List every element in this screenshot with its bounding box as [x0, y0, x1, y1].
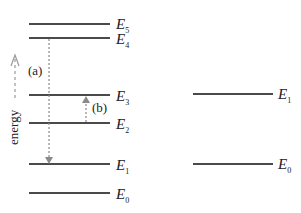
transition-a-arrow — [45, 39, 53, 164]
transition-b-arrow — [82, 96, 90, 122]
transition-a-label: (a) — [28, 63, 42, 79]
arrows-layer — [0, 0, 301, 213]
energy-axis-label: energy — [6, 110, 22, 145]
transition-b-label: (b) — [92, 100, 107, 116]
energy-axis-arrow — [11, 55, 19, 98]
